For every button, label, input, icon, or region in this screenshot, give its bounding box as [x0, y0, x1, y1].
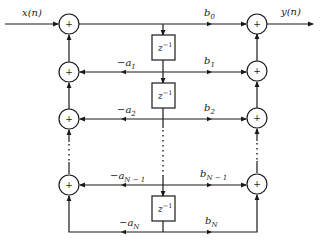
plus-icon: + — [65, 114, 73, 124]
plus-icon: + — [253, 179, 261, 189]
coeff-aN-1: −aN − 1 — [110, 170, 145, 184]
iir-filter-diagram: + + + + + + + + z−1 z−1 z−1 x(n) y(n) −a… — [0, 0, 325, 241]
b1-arrow-icon — [207, 70, 212, 74]
coeff-b1: b1 — [204, 55, 215, 69]
coeff-bN: bN — [205, 215, 218, 229]
coeff-b2: b2 — [204, 102, 215, 116]
a1-arrow-icon — [121, 70, 126, 74]
output-label: y(n) — [280, 6, 301, 17]
coeff-b0: b0 — [204, 7, 215, 21]
b0-arrow-icon — [207, 22, 212, 26]
plus-icon: + — [253, 113, 261, 123]
coeff-aN: −aN — [119, 217, 140, 231]
b2-arrow-icon — [207, 117, 212, 121]
bN1-arrow-icon — [207, 183, 212, 187]
aN-arrow-icon — [121, 230, 126, 234]
plus-icon: + — [65, 67, 73, 77]
a2-arrow-icon — [121, 117, 126, 121]
aN-branch — [69, 196, 163, 232]
input-label: x(n) — [22, 7, 42, 18]
plus-icon: + — [253, 19, 261, 29]
coeff-a1: −a1 — [117, 57, 136, 71]
bN-branch — [163, 195, 257, 232]
plus-icon: + — [65, 19, 73, 29]
plus-icon: + — [65, 180, 73, 190]
coeff-bN-1: bN − 1 — [200, 168, 227, 182]
coeff-a2: −a2 — [117, 104, 136, 118]
bN-arrow-icon — [207, 230, 212, 234]
plus-icon: + — [253, 66, 261, 76]
